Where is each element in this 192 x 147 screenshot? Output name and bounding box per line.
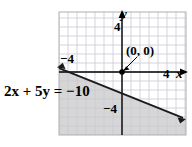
- x-axis-tick-neg4: −4: [60, 52, 74, 65]
- y-axis-tick-4: 4: [114, 20, 121, 33]
- x-axis-tick-4: 4: [163, 67, 170, 80]
- y-axis-label: y: [121, 7, 127, 20]
- x-axis-label: x: [176, 67, 183, 80]
- equation-label: 2x + 5y = −10: [4, 84, 90, 99]
- y-axis-tick-neg4: −4: [103, 102, 117, 115]
- origin-point-label: (0, 0): [126, 44, 154, 57]
